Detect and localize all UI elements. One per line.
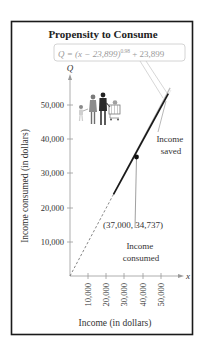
y-axis-label: Income consumed (in dollars) — [20, 129, 31, 243]
x-tick-label: 50,000 — [156, 283, 166, 306]
y-tick-label: 10,000 — [41, 237, 64, 247]
x-axis-label: Income (in dollars) — [79, 318, 152, 329]
x-tick-label: 20,000 — [101, 283, 111, 306]
highlighted-point — [134, 155, 139, 160]
point-label: (37,000, 34,737) — [103, 220, 163, 230]
formula-suffix: + 23,899 — [130, 49, 165, 59]
y-tick-label: 40,000 — [41, 134, 64, 144]
y-axis-symbol: Q — [67, 63, 74, 73]
y-tick-label: 30,000 — [41, 168, 64, 178]
propensity-to-consume-figure: Propensity to Consume Q = (x − 23,899)0.… — [0, 0, 203, 356]
formula-exponent: 0.98 — [120, 48, 130, 54]
formula-prefix: Q = (x − 23,899) — [58, 49, 120, 59]
x-axis-symbol: x — [185, 271, 190, 281]
y-tick-label: 20,000 — [41, 203, 64, 213]
y-tick-label: 50,000 — [41, 100, 64, 110]
formula-text: Q = (x − 23,899)0.98 + 23,899 — [58, 48, 165, 59]
x-tick-label: 10,000 — [83, 283, 93, 306]
chart-title: Propensity to Consume — [48, 28, 157, 40]
x-tick-label: 30,000 — [119, 283, 129, 306]
x-tick-label: 40,000 — [138, 283, 148, 306]
